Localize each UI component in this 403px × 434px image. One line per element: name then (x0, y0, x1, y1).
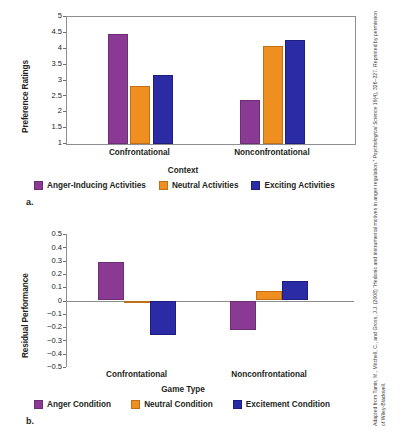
credit-journal-name: Psychological Science (372, 107, 378, 159)
panel-b-x-axis-title: Game Type (0, 385, 366, 394)
panel-b-legend-item-0: Anger Condition (34, 400, 111, 409)
panel-b-category-label-nonconfrontational: Nonconfrontational (214, 370, 324, 379)
panel-a-x-axis-title: Context (0, 166, 366, 175)
panel-b-y-tick-7: −0.2 (47, 323, 62, 331)
panel-b-tick-mark-3 (63, 274, 66, 275)
panel-b-legend: Anger ConditionNeutral ConditionExciteme… (34, 400, 330, 409)
panel-a-category-label-nonconfrontational: Nonconfrontational (217, 148, 327, 157)
panel-a-bar-1-0 (240, 100, 260, 144)
panel-b-tick-mark-8 (63, 340, 66, 341)
panel-b-legend-label-0: Anger Condition (47, 400, 111, 409)
panel-a-tick-mark-8 (63, 143, 66, 144)
panel-a-bar-1-2 (285, 40, 305, 144)
panel-a-legend-label-0: Anger-Inducing Activities (47, 181, 146, 190)
panel-b-legend-label-2: Excitement Condition (246, 400, 330, 409)
panel-b-plot-area (66, 234, 354, 367)
panel-b-bar-0-0 (98, 262, 124, 301)
panel-b-zero-line (66, 301, 354, 302)
panel-b-tick-mark-10 (63, 367, 66, 368)
panel-a-y-tick-labels: 54.543.532.521.51 (36, 16, 62, 143)
panel-a-y-axis-title: Preference Ratings (20, 60, 30, 133)
panel-a-y-tick-5: 2.5 (51, 92, 62, 100)
panel-a-legend-item-1: Neutral Activities (159, 181, 239, 190)
panel-b-y-tick-5: 0 (58, 297, 62, 305)
panel-b-y-tick-labels: 0.50.40.30.20.10−0.1−0.2−0.3−0.4−0.5 (36, 234, 62, 367)
panel-a-tick-mark-7 (63, 127, 66, 128)
panel-b-y-tick-4: 0.1 (51, 283, 62, 291)
panel-a-category-label-confrontational: Confrontational (84, 148, 194, 157)
panel-a-legend-swatch-orange (159, 181, 168, 190)
panel-b-y-tick-2: 0.3 (51, 257, 62, 265)
panel-b-category-label-confrontational: Confrontational (82, 370, 192, 379)
figure-source-credit: Adapted from Tamir, M., Mitchell, C., an… (372, 6, 387, 426)
panel-a-y-tick-4: 3 (58, 76, 62, 84)
panel-a-bar-0-0 (108, 34, 128, 144)
panel-b-tick-mark-4 (63, 287, 66, 288)
panel-a-legend-item-0: Anger-Inducing Activities (34, 181, 146, 190)
panel-b-bar-1-1 (256, 291, 282, 300)
panel-b-legend-item-1: Neutral Condition (131, 400, 213, 409)
panel-b-legend-label-1: Neutral Condition (144, 400, 213, 409)
panel-b-tick-mark-5 (63, 301, 66, 302)
panel-b-tick-mark-0 (63, 234, 66, 235)
panel-a-legend-label-1: Neutral Activities (172, 181, 239, 190)
panel-a-y-tick-3: 3.5 (51, 60, 62, 68)
panel-a-legend-label-2: Exciting Activities (264, 181, 334, 190)
panel-b-y-tick-8: −0.3 (47, 337, 62, 345)
panel-b-legend-swatch-orange (131, 400, 140, 409)
panel-a-plot-area (66, 16, 356, 145)
panel-b-tick-mark-2 (63, 261, 66, 262)
panel-a-legend-item-2: Exciting Activities (251, 181, 334, 190)
chart-panel-b: Residual Performance 0.50.40.30.20.10−0.… (0, 212, 366, 434)
panel-b-y-tick-6: −0.1 (47, 310, 62, 318)
panel-a-legend-swatch-blue (251, 181, 260, 190)
panel-b-y-tick-0: 0.5 (51, 230, 62, 238)
panel-b-tick-mark-1 (63, 247, 66, 248)
chart-panel-a: Preference Ratings 54.543.532.521.51 Con… (0, 0, 366, 212)
panel-b-tick-mark-6 (63, 314, 66, 315)
panel-a-bar-0-1 (130, 86, 150, 144)
panel-b-legend-swatch-blue (233, 400, 242, 409)
panel-a-tick-mark-4 (63, 80, 66, 81)
panel-a-legend-swatch-purple (34, 181, 43, 190)
panel-a-tick-mark-5 (63, 95, 66, 96)
panel-a-y-tick-8: 1 (58, 139, 62, 147)
panel-b-legend-swatch-purple (34, 400, 43, 409)
figure-container: Preference Ratings 54.543.532.521.51 Con… (0, 0, 403, 434)
panel-a-tick-mark-0 (63, 16, 66, 17)
panel-a-tick-mark-6 (63, 111, 66, 112)
panel-b-bar-0-1 (124, 301, 150, 304)
panel-b-y-tick-3: 0.2 (51, 270, 62, 278)
panel-b-y-axis-title: Residual Performance (20, 273, 30, 358)
panel-b-tick-mark-9 (63, 354, 66, 355)
panel-a-y-tick-6: 2 (58, 107, 62, 115)
panel-b-y-tick-1: 0.4 (51, 244, 62, 252)
panel-b-bar-1-2 (282, 281, 308, 300)
panel-a-y-tick-1: 4.5 (51, 28, 62, 36)
panel-a-bar-1-1 (263, 46, 283, 144)
panel-a-letter: a. (26, 197, 34, 207)
panel-b-bar-1-0 (230, 301, 256, 330)
panel-a-bar-0-2 (153, 75, 173, 144)
panel-b-bar-0-2 (150, 301, 176, 336)
panel-a-y-tick-7: 1.5 (51, 123, 62, 131)
panel-a-tick-mark-3 (63, 64, 66, 65)
panel-b-legend-item-2: Excitement Condition (233, 400, 330, 409)
panel-a-tick-mark-1 (63, 32, 66, 33)
panel-a-legend: Anger-Inducing ActivitiesNeutral Activit… (34, 181, 335, 190)
panel-b-y-tick-9: −0.4 (47, 350, 62, 358)
panel-a-y-tick-2: 4 (58, 44, 62, 52)
panel-a-tick-mark-2 (63, 48, 66, 49)
panel-b-tick-mark-7 (63, 327, 66, 328)
panel-a-y-tick-0: 5 (58, 12, 62, 20)
credit-part-1: Adapted from Tamir, M., Mitchell, C., an… (372, 158, 378, 426)
panel-b-y-tick-10: −0.5 (47, 363, 62, 371)
panel-b-letter: b. (26, 416, 34, 426)
